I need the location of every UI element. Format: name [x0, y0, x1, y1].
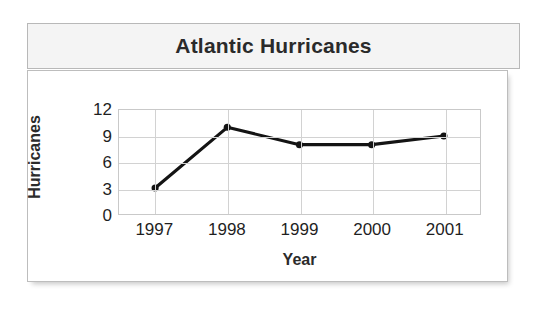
y-axis-tick-label: 9: [80, 127, 112, 144]
x-axis-tick-labels: 19971998199920002001: [118, 221, 481, 245]
gridline-horizontal: [119, 190, 480, 191]
x-axis-tick-label: 1998: [187, 221, 267, 238]
data-point-marker: [296, 141, 303, 148]
y-axis-tick-label: 3: [80, 180, 112, 197]
x-axis-tick-label: 1997: [114, 221, 194, 238]
line-series: [119, 110, 480, 214]
y-axis-tick-label: 6: [80, 154, 112, 171]
y-axis-tick-label: 0: [80, 207, 112, 224]
gridline-vertical: [446, 110, 447, 214]
y-axis-title: Hurricanes: [26, 107, 44, 207]
page-title: Atlantic Hurricanes: [175, 34, 371, 58]
gridline-vertical: [228, 110, 229, 214]
x-axis-tick-label: 2001: [405, 221, 485, 238]
data-point-marker: [368, 141, 375, 148]
gridline-vertical: [301, 110, 302, 214]
x-axis-tick-label: 1999: [260, 221, 340, 238]
gridline-vertical: [155, 110, 156, 214]
chart-title-bar: Atlantic Hurricanes: [27, 23, 520, 69]
gridline-horizontal: [119, 163, 480, 164]
chart-body-panel: Hurricanes 036912 19971998199920002001 Y…: [27, 70, 508, 282]
plot-area: [118, 109, 481, 215]
x-axis-tick-label: 2000: [332, 221, 412, 238]
gridline-horizontal: [119, 137, 480, 138]
chart-card: Atlantic Hurricanes Hurricanes 036912 19…: [27, 23, 508, 282]
gridline-vertical: [373, 110, 374, 214]
y-axis-tick-labels: 036912: [80, 109, 112, 215]
y-axis-tick-label: 12: [80, 101, 112, 118]
x-axis-title: Year: [118, 251, 481, 269]
